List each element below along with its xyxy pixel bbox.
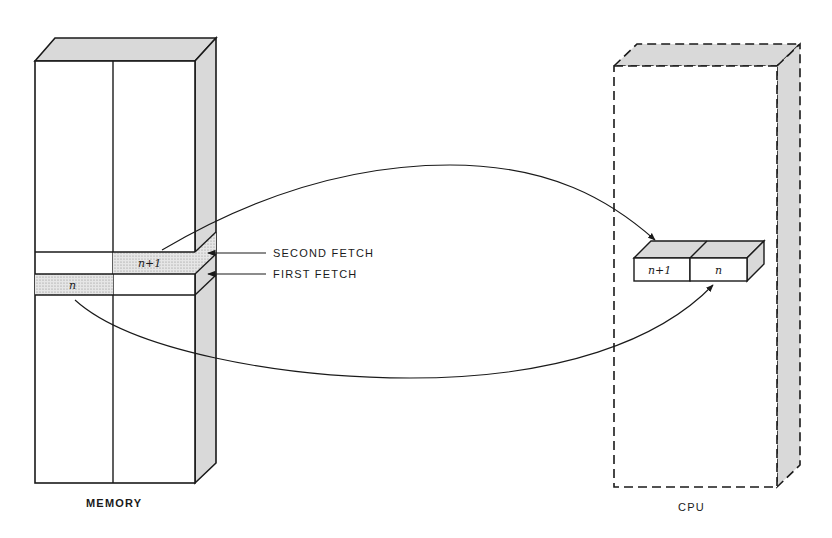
first-fetch-label: FIRST FETCH [273, 268, 358, 280]
second-fetch-transfer-arrow [162, 165, 655, 250]
memory-block: n+1 n MEMORY [35, 38, 216, 509]
cpu-label: CPU [678, 501, 705, 513]
register-slot-n-label: n [715, 264, 722, 277]
memory-cell-n-label: n [69, 279, 76, 292]
memory-label: MEMORY [86, 497, 142, 509]
cpu-register: n+1 n [634, 241, 764, 281]
cpu-side-face [777, 44, 800, 487]
memory-cell-n-plus-1-label: n+1 [138, 257, 161, 270]
cpu-block: n+1 n CPU [614, 44, 800, 513]
memory-top-face [35, 38, 216, 61]
fetch-annotations: SECOND FETCH FIRST FETCH [208, 247, 374, 280]
register-slot-n-plus-1-label: n+1 [648, 264, 671, 277]
second-fetch-label: SECOND FETCH [273, 247, 374, 259]
memory-fetch-diagram: n+1 n MEMORY SECOND FETCH FIRST FETCH n+… [0, 0, 832, 538]
cpu-top-face [614, 44, 800, 66]
